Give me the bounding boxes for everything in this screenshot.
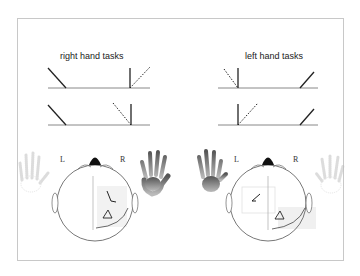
head-diagram-right-hand — [52, 158, 138, 242]
diagram-graphics — [0, 0, 360, 276]
inactive-right-hand-icon — [316, 155, 343, 193]
right-tasks-row-2 — [48, 103, 150, 125]
inactive-left-hand-icon — [20, 153, 48, 192]
right-tasks-row-1 — [48, 67, 150, 88]
head-diagram-left-hand — [226, 158, 316, 242]
active-right-hand-icon — [142, 152, 168, 194]
left-tasks-row-1 — [218, 68, 318, 88]
left-tasks-row-2 — [218, 103, 318, 125]
active-left-hand-icon — [199, 151, 226, 192]
